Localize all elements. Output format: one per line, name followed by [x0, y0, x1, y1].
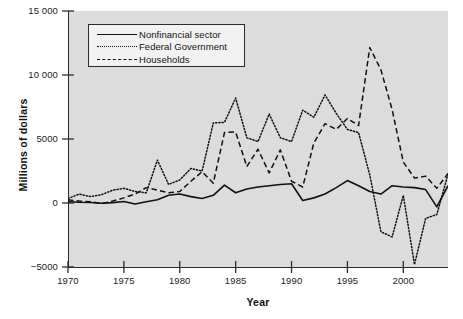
x-tick-label: 1995 [324, 275, 370, 286]
legend-item-federal-government: Federal Government [89, 41, 244, 54]
x-tick-label: 1975 [101, 275, 147, 286]
series-line [68, 47, 448, 203]
legend-label: Nonfinancial sector [139, 29, 221, 40]
legend-item-households: Households [89, 53, 244, 66]
legend-label: Households [139, 54, 190, 65]
chart-legend: Nonfinancial sector Federal Government H… [88, 24, 245, 67]
legend-label: Federal Government [139, 41, 227, 52]
y-tick-label: 15 000 [6, 5, 58, 16]
chart-figure: 15 00010 00050000−5000 19701975198019851… [0, 0, 463, 319]
x-tick-label: 1985 [213, 275, 259, 286]
y-tick-label: 10 000 [6, 69, 58, 80]
y-axis-label: Millions of dollars [17, 70, 29, 220]
legend-key-dashed-icon [95, 54, 139, 65]
y-tick-label: 5000 [6, 133, 58, 144]
x-tick-label: 2000 [380, 275, 426, 286]
y-tick-label: −5000 [6, 261, 58, 272]
series-line [68, 181, 448, 207]
series-line [68, 95, 448, 265]
legend-key-solid-icon [95, 29, 139, 40]
x-tick-label: 1990 [269, 275, 315, 286]
legend-key-dotted-icon [95, 41, 139, 52]
x-tick-label: 1970 [45, 275, 91, 286]
y-tick-label: 0 [6, 197, 58, 208]
legend-item-nonfinancial-sector: Nonfinancial sector [89, 28, 244, 41]
x-axis-label: Year [68, 296, 448, 308]
x-tick-label: 1980 [157, 275, 203, 286]
